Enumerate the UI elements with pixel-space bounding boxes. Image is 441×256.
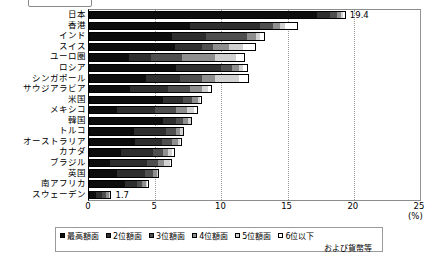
bar-segment: [89, 138, 135, 146]
bar-segment: [89, 11, 317, 19]
category-label-12: オーストラリア: [0, 136, 86, 146]
bar-segment: [151, 53, 181, 61]
legend-swatch-icon: [106, 233, 111, 238]
x-axis-unit-label: (%): [408, 211, 423, 221]
bar-segment: [158, 169, 159, 177]
bar-segment: [170, 159, 173, 167]
bar-segment: [172, 148, 175, 156]
bar-segment: [260, 22, 273, 30]
category-label-5: ロシア: [0, 62, 86, 72]
x-tick-25: 25: [414, 201, 425, 211]
bar-segment: [343, 11, 346, 19]
legend-item-4[interactable]: 5位額面: [235, 230, 271, 241]
bar-segment: [89, 191, 96, 199]
bar-row: [89, 85, 212, 93]
legend-item-1[interactable]: 2位額面: [106, 230, 142, 241]
bar-segment: [147, 159, 158, 167]
legend-label: 4位額面: [199, 230, 228, 241]
bar-segment: [215, 74, 239, 82]
bar-segment: [89, 32, 172, 40]
legend-swatch-icon: [278, 233, 283, 238]
legend-label: 6位以下: [285, 230, 314, 241]
cropped-header-strip: [0, 0, 441, 9]
bar-segment: [89, 22, 190, 30]
bar-row: [89, 11, 346, 19]
legend-continuation-label: および貨幣等: [60, 242, 378, 253]
bar-segment: [110, 191, 111, 199]
category-label-2: インド: [0, 30, 86, 40]
legend-swatch-icon: [235, 233, 240, 238]
bar-segment: [260, 32, 265, 40]
x-tick-0: 0: [85, 201, 90, 211]
category-label-0: 日本: [0, 9, 86, 19]
header-box: [28, 0, 92, 7]
bar-segment: [172, 32, 205, 40]
bar-row: [89, 43, 256, 51]
gridline-25: [420, 10, 421, 200]
bar-segment: [163, 117, 176, 125]
legend-items: 最高額面2位額面3位額面4位額面5位額面6位以下: [60, 230, 378, 241]
bar-segment: [153, 148, 164, 156]
bar-segment: [285, 22, 298, 30]
bar-segment: [89, 106, 117, 114]
bar-segment: [243, 64, 248, 72]
bar-segment: [89, 127, 134, 135]
bar-segment: [330, 11, 337, 19]
bar-segment: [163, 96, 183, 104]
bar-segment: [89, 148, 121, 156]
category-label-3: スイス: [0, 41, 86, 51]
bar-segment: [247, 32, 256, 40]
bar-row: [89, 32, 265, 40]
x-tick-20: 20: [347, 201, 358, 211]
category-label-7: サウジアラビア: [0, 83, 86, 93]
category-label-17: スウェーデン: [0, 189, 86, 199]
bar-segment: [232, 64, 239, 72]
category-label-13: カナダ: [0, 146, 86, 156]
bar-segment: [89, 64, 176, 72]
bar-row: [89, 127, 184, 135]
bar-segment: [110, 159, 147, 167]
bar-segment: [317, 11, 330, 19]
category-label-15: 英国: [0, 168, 86, 178]
chart-legend: 最高額面2位額面3位額面4位額面5位額面6位以下 および貨幣等: [55, 227, 383, 252]
bar-segment: [162, 138, 173, 146]
bar-segment: [194, 106, 198, 114]
bar-row: [89, 159, 172, 167]
bar-segment: [89, 43, 175, 51]
bar-segment: [190, 85, 202, 93]
bar-segment: [89, 180, 125, 188]
bar-segment: [89, 169, 117, 177]
category-axis-labels: 日本香港インドスイスユーロ圏ロシアシンガポールサウジアラビア米国メキシコ韓国トル…: [0, 9, 86, 201]
bar-segment: [117, 106, 155, 114]
bar-segment: [176, 106, 187, 114]
bar-row: [89, 22, 298, 30]
x-axis: 0510152025: [88, 201, 421, 219]
category-label-8: 米国: [0, 94, 86, 104]
gridline-20: [354, 10, 355, 200]
bar-row: [89, 74, 249, 82]
legend-swatch-icon: [192, 233, 197, 238]
legend-swatch-icon: [60, 233, 65, 238]
legend-item-0[interactable]: 最高額面: [60, 230, 99, 241]
bar-segment: [89, 96, 163, 104]
bar-segment: [213, 43, 229, 51]
legend-item-5[interactable]: 6位以下: [278, 230, 314, 241]
bar-segment: [176, 117, 183, 125]
bar-row: [89, 96, 202, 104]
bar-segment: [117, 169, 145, 177]
bar-segment: [200, 96, 201, 104]
legend-label: 5位額面: [242, 230, 271, 241]
legend-item-2[interactable]: 3位額面: [149, 230, 185, 241]
bar-segment: [121, 148, 153, 156]
bar-segment: [134, 127, 166, 135]
bar-row: [89, 64, 248, 72]
category-label-11: トルコ: [0, 125, 86, 135]
bar-segment: [183, 96, 192, 104]
value-label-17: 1.7: [116, 190, 130, 200]
bar-segment: [180, 74, 201, 82]
bar-segment: [236, 53, 245, 61]
bar-segment: [202, 74, 215, 82]
stacked-bar-chart: 日本香港インドスイスユーロ圏ロシアシンガポールサウジアラビア米国メキシコ韓国トル…: [0, 0, 441, 256]
bar-segment: [202, 43, 214, 51]
legend-item-3[interactable]: 4位額面: [192, 230, 228, 241]
